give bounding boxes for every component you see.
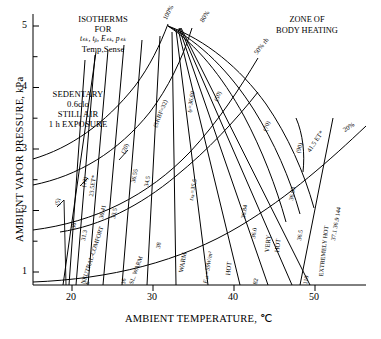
isotherms-temp-sense: Temp,Sense xyxy=(63,45,143,54)
chart-canvas xyxy=(0,0,381,339)
x-tick-30: 30 xyxy=(147,292,157,303)
isotherms-title-line2: FOR xyxy=(63,25,143,34)
conditions-still-air: STILL AIR xyxy=(38,110,118,119)
x-tick-20: 20 xyxy=(66,292,76,303)
x-tick-50: 50 xyxy=(309,292,319,303)
value-tsk-36: 36 xyxy=(70,222,78,229)
value-esk-82: 82 xyxy=(252,278,259,285)
y-tick-1: 1 xyxy=(22,266,27,277)
band-very-hot-line2: HOT xyxy=(274,239,282,253)
y-tick-5: 5 xyxy=(22,20,27,31)
x-axis-title: AMBIENT TEMPERATURE, ℃ xyxy=(125,313,272,324)
chart-root: 5 4 3 2 1 AMBIENT VAPOR PRESSURE, kPa 20… xyxy=(0,0,381,339)
y-axis-title: AMBIENT VAPOR PRESSURE, kPa xyxy=(14,77,25,242)
value-esk-38: 38 xyxy=(155,242,162,249)
conditions-sedentary: SEDENTARY xyxy=(38,90,118,99)
band-hot: HOT xyxy=(225,262,233,276)
y-ticks xyxy=(33,26,39,272)
x-ticks xyxy=(72,285,315,291)
isotherms-variables: tₛₖ, tᵦ, Eₛₖ, pₛₖ xyxy=(63,35,143,43)
value-esk-16: 16 xyxy=(120,278,127,285)
conditions-exposure: 1 h EXPOSURE xyxy=(38,120,118,129)
skbf-label-5: (5) xyxy=(54,198,62,206)
isotherms-title-line1: ISOTHERMS xyxy=(63,15,143,24)
zone-of-body-heating-line2: BODY HEATING xyxy=(252,27,362,36)
zone-of-body-heating-line1: ZONE OF xyxy=(252,16,362,25)
x-tick-40: 40 xyxy=(228,292,238,303)
conditions-clo: 0.6clo xyxy=(38,100,118,109)
